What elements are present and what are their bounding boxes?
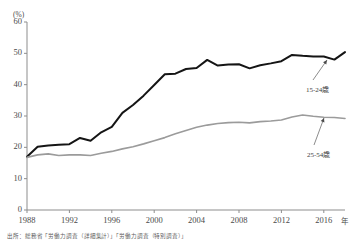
x-tick-label: 2000 — [137, 215, 171, 225]
annotation-pointers — [313, 60, 327, 145]
y-tick-label: 50 — [4, 47, 22, 57]
annotation-leader-line — [314, 118, 324, 145]
y-tick-label: 10 — [4, 173, 22, 183]
x-tick-label: 2012 — [264, 215, 298, 225]
series-line — [27, 52, 345, 157]
x-tick-label: 1996 — [95, 215, 129, 225]
x-tick-label: 2008 — [222, 215, 256, 225]
chart-container: (%) 0102030405060 1988199219962000200420… — [0, 0, 353, 243]
series-line — [27, 115, 345, 157]
source-note: 出所：総務省「労働力調査（詳細集計）」「労働力調査（特別調査）」 — [7, 232, 187, 240]
y-tick-label: 20 — [4, 141, 22, 151]
series-label-15-24歳: 15-24歳 — [306, 84, 329, 94]
y-tick-label: 0 — [4, 204, 22, 214]
series-label-25-54歳: 25-54歳 — [307, 149, 330, 159]
annotation-arrowhead — [323, 60, 327, 64]
chart-plot-area — [0, 0, 353, 243]
x-tick-label: 1988 — [10, 215, 44, 225]
y-tick-label: 60 — [4, 16, 22, 26]
y-tick-label: 30 — [4, 110, 22, 120]
x-tick-label: 2004 — [180, 215, 214, 225]
x-tick-label: 1992 — [52, 215, 86, 225]
data-series-group — [27, 52, 345, 157]
y-tick-label: 40 — [4, 79, 22, 89]
x-tick-label: 2016 — [307, 215, 341, 225]
x-axis-unit-label: 年 — [341, 215, 348, 226]
